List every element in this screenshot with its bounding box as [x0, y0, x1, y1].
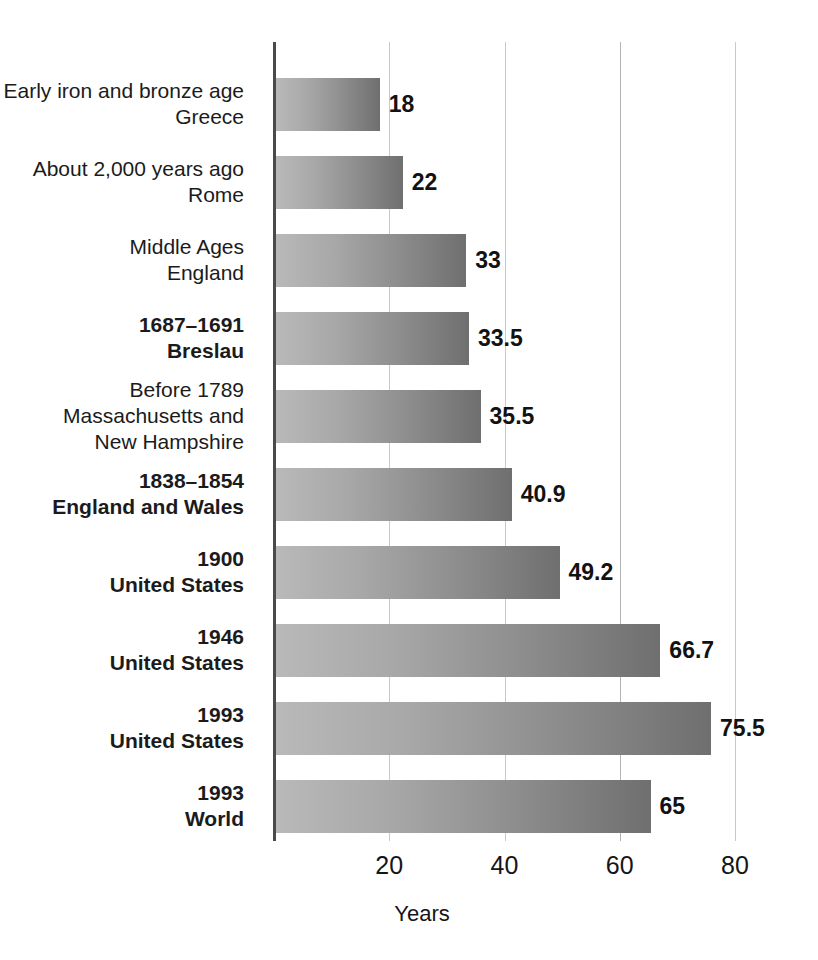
- category-label: 1687–1691Breslau: [0, 299, 258, 377]
- bar-row: 1993United States75.5: [0, 689, 818, 767]
- category-label-line: 1993: [197, 780, 244, 806]
- bar-value-label: 35.5: [481, 390, 535, 443]
- category-label-line: Breslau: [167, 338, 244, 364]
- bar-row: 1946United States66.7: [0, 611, 818, 689]
- x-tick-label: 40: [491, 851, 519, 880]
- bar-row: Middle AgesEngland33: [0, 221, 818, 299]
- bar-row: 1993World65: [0, 767, 818, 845]
- category-label-line: United States: [110, 572, 244, 598]
- bar-value-label: 66.7: [660, 624, 714, 677]
- bar-row: 1900United States49.2: [0, 533, 818, 611]
- category-label-line: World: [185, 806, 244, 832]
- bar-value-label: 40.9: [512, 468, 566, 521]
- category-label-line: Middle Ages: [130, 234, 244, 260]
- bar-row: 1687–1691Breslau33.5: [0, 299, 818, 377]
- bar[interactable]: [276, 624, 660, 677]
- bar-value-label: 49.2: [560, 546, 614, 599]
- bar-row: 1838–1854England and Wales40.9: [0, 455, 818, 533]
- bar-rows: Early iron and bronze ageGreece18About 2…: [0, 0, 818, 840]
- category-label: 1900United States: [0, 533, 258, 611]
- category-label-line: 1687–1691: [139, 312, 244, 338]
- bar-value-label: 65: [651, 780, 686, 833]
- category-label: Early iron and bronze ageGreece: [0, 65, 258, 143]
- category-label-line: United States: [110, 728, 244, 754]
- x-axis-title-text: Years: [394, 901, 449, 927]
- category-label-line: New Hampshire: [95, 429, 244, 455]
- category-label-line: 1838–1854: [139, 468, 244, 494]
- category-label: 1946United States: [0, 611, 258, 689]
- category-label-line: Rome: [188, 182, 244, 208]
- bar-value-label: 75.5: [711, 702, 765, 755]
- bar[interactable]: [276, 390, 481, 443]
- x-tick-label: 60: [606, 851, 634, 880]
- bar[interactable]: [276, 702, 711, 755]
- bar[interactable]: [276, 546, 560, 599]
- category-label: Before 1789Massachusetts andNew Hampshir…: [0, 377, 258, 455]
- category-label-line: Early iron and bronze age: [4, 78, 245, 104]
- bar-row: Before 1789Massachusetts andNew Hampshir…: [0, 377, 818, 455]
- bar-value-label: 22: [403, 156, 438, 209]
- category-label-line: About 2,000 years ago: [33, 156, 244, 182]
- category-label-line: United States: [110, 650, 244, 676]
- bar[interactable]: [276, 78, 380, 131]
- bar[interactable]: [276, 234, 466, 287]
- bar-row: About 2,000 years agoRome22: [0, 143, 818, 221]
- category-label: Middle AgesEngland: [0, 221, 258, 299]
- bar-value-label: 33.5: [469, 312, 523, 365]
- bar-value-label: 33: [466, 234, 501, 287]
- category-label-line: England: [167, 260, 244, 286]
- x-tick-label: 20: [375, 851, 403, 880]
- category-label-line: Before 1789: [130, 377, 244, 403]
- category-label-line: England and Wales: [52, 494, 244, 520]
- category-label: 1993World: [0, 767, 258, 845]
- x-axis-ticks: 20406080: [0, 841, 818, 881]
- x-axis-title: Years: [0, 901, 818, 927]
- bar-chart: Early iron and bronze ageGreece18About 2…: [0, 0, 818, 960]
- x-tick-label: 80: [721, 851, 749, 880]
- category-label-line: 1900: [197, 546, 244, 572]
- bar[interactable]: [276, 780, 651, 833]
- bar[interactable]: [276, 156, 403, 209]
- category-label: 1838–1854England and Wales: [0, 455, 258, 533]
- bar-value-label: 18: [380, 78, 415, 131]
- category-label-line: Massachusetts and: [63, 403, 244, 429]
- category-label: 1993United States: [0, 689, 258, 767]
- category-label: About 2,000 years agoRome: [0, 143, 258, 221]
- bar[interactable]: [276, 468, 512, 521]
- bar[interactable]: [276, 312, 469, 365]
- bar-row: Early iron and bronze ageGreece18: [0, 65, 818, 143]
- category-label-line: 1993: [197, 702, 244, 728]
- category-label-line: Greece: [175, 104, 244, 130]
- category-label-line: 1946: [197, 624, 244, 650]
